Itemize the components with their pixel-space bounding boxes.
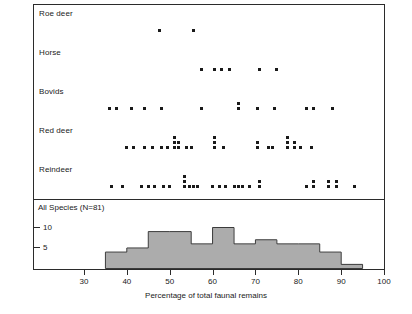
species-label-reindeer: Reindeer <box>39 165 72 174</box>
data-point <box>335 185 338 188</box>
data-point <box>327 180 330 183</box>
data-point <box>147 185 150 188</box>
data-point <box>162 185 165 188</box>
data-point <box>293 141 296 144</box>
xtick-label-80: 80 <box>294 277 303 286</box>
data-point <box>299 146 302 149</box>
xtick-mark-40 <box>127 270 128 275</box>
data-point <box>241 185 244 188</box>
data-point <box>286 136 289 139</box>
data-point <box>168 185 171 188</box>
data-point <box>188 185 191 188</box>
data-point <box>258 185 261 188</box>
data-point <box>121 185 124 188</box>
data-point <box>218 185 221 188</box>
data-point <box>213 141 216 144</box>
xtick-mark-60 <box>213 270 214 275</box>
data-point <box>310 146 313 149</box>
x-axis-line <box>33 269 385 270</box>
xtick-label-30: 30 <box>80 277 89 286</box>
data-point <box>173 146 176 149</box>
data-point <box>353 185 356 188</box>
data-point <box>173 141 176 144</box>
data-point <box>331 107 334 110</box>
data-point <box>200 68 203 71</box>
data-point <box>305 185 308 188</box>
data-point <box>237 107 240 110</box>
data-point <box>211 185 214 188</box>
data-point <box>173 136 176 139</box>
data-point <box>237 102 240 105</box>
data-point <box>213 136 216 139</box>
data-point <box>158 29 161 32</box>
data-point <box>160 146 163 149</box>
data-point <box>258 180 261 183</box>
data-point <box>166 146 169 149</box>
data-point <box>183 180 186 183</box>
data-point <box>267 146 270 149</box>
species-label-horse: Horse <box>39 48 61 57</box>
data-point <box>115 107 118 110</box>
ytick-label-10: 10 <box>43 224 52 232</box>
data-point <box>258 68 261 71</box>
data-point <box>312 185 315 188</box>
data-point <box>305 107 308 110</box>
xtick-mark-80 <box>298 270 299 275</box>
data-point <box>140 185 143 188</box>
species-label-roe-deer: Roe deer <box>39 9 73 18</box>
data-point <box>190 146 193 149</box>
data-point <box>177 146 180 149</box>
data-point <box>151 146 154 149</box>
data-point <box>233 185 236 188</box>
xtick-label-40: 40 <box>122 277 131 286</box>
xtick-mark-50 <box>170 270 171 275</box>
xtick-mark-30 <box>84 270 85 275</box>
species-label-red-deer: Red deer <box>39 126 73 135</box>
ytick-mark-10 <box>33 227 40 228</box>
histogram-title: All Species (N=81) <box>38 203 104 212</box>
data-point <box>286 146 289 149</box>
data-point <box>177 141 180 144</box>
data-point <box>200 107 203 110</box>
data-point <box>185 146 188 149</box>
data-point <box>273 107 276 110</box>
data-point <box>110 185 113 188</box>
xtick-mark-70 <box>255 270 256 275</box>
x-axis-title: Percentage of total faunal remains <box>0 291 412 300</box>
data-point <box>286 141 289 144</box>
data-point <box>192 29 195 32</box>
xtick-label-50: 50 <box>165 277 174 286</box>
data-point <box>213 68 216 71</box>
data-point <box>192 185 195 188</box>
data-point <box>335 180 338 183</box>
data-point <box>275 68 278 71</box>
data-point <box>224 185 227 188</box>
data-point <box>132 146 135 149</box>
data-point <box>143 146 146 149</box>
xtick-mark-90 <box>341 270 342 275</box>
xtick-label-60: 60 <box>208 277 217 286</box>
xtick-label-70: 70 <box>251 277 260 286</box>
ytick-mark-5 <box>33 247 40 248</box>
data-point <box>327 185 330 188</box>
data-point <box>248 185 251 188</box>
data-point <box>196 185 199 188</box>
data-point <box>256 107 259 110</box>
dot-plot-panel <box>33 4 385 200</box>
data-point <box>125 146 128 149</box>
ytick-label-5: 5 <box>43 244 47 252</box>
data-point <box>256 141 259 144</box>
species-label-bovids: Bovids <box>39 87 64 96</box>
xtick-mark-100 <box>384 270 385 275</box>
data-point <box>130 107 133 110</box>
xtick-label-100: 100 <box>377 277 390 286</box>
data-point <box>160 107 163 110</box>
figure-container: Roe deer Horse Bovids Red deer Reindeer … <box>0 0 412 314</box>
data-point <box>153 185 156 188</box>
xtick-label-90: 90 <box>337 277 346 286</box>
data-point <box>222 146 225 149</box>
data-point <box>183 175 186 178</box>
data-point <box>312 107 315 110</box>
data-point <box>108 107 111 110</box>
data-point <box>293 146 296 149</box>
